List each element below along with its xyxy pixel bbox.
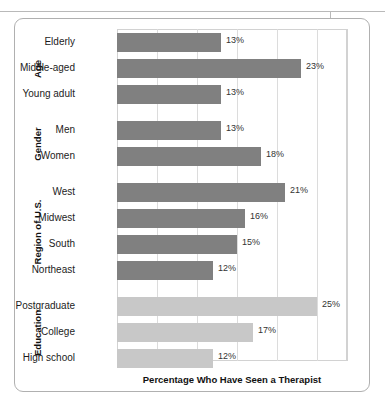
bar-chart: AgeGenderRegion of U.S.Education Elderly… xyxy=(0,0,385,398)
bar-value-label: 15% xyxy=(242,237,260,247)
x-axis-title: Percentage Who Have Seen a Therapist xyxy=(117,374,347,385)
bar-row: Middle-aged23% xyxy=(0,59,385,78)
bar-value-label: 18% xyxy=(266,149,284,159)
bar xyxy=(117,261,213,280)
bar-row: South15% xyxy=(0,235,385,254)
bar-row: Midwest16% xyxy=(0,209,385,228)
bar xyxy=(117,59,301,78)
bar xyxy=(117,209,245,228)
bar-category-label: Men xyxy=(0,124,75,135)
bar-row: Men13% xyxy=(0,121,385,140)
bar-value-label: 12% xyxy=(218,263,236,273)
bar-row: Elderly13% xyxy=(0,33,385,52)
bar-category-label: Women xyxy=(0,150,75,161)
bar xyxy=(117,85,221,104)
bar-row: Young adult13% xyxy=(0,85,385,104)
bar xyxy=(117,349,213,368)
bar-category-label: Northeast xyxy=(0,264,75,275)
bar xyxy=(117,33,221,52)
bar-row: West21% xyxy=(0,183,385,202)
bar-row: College17% xyxy=(0,323,385,342)
bar-row: High school12% xyxy=(0,349,385,368)
bar-category-label: Middle-aged xyxy=(0,62,75,73)
bar-category-label: College xyxy=(0,326,75,337)
bar-row: Northeast12% xyxy=(0,261,385,280)
bar-category-label: Midwest xyxy=(0,212,75,223)
bar-category-label: High school xyxy=(0,352,75,363)
bar-value-label: 17% xyxy=(258,325,276,335)
bar-value-label: 21% xyxy=(290,185,308,195)
bar-value-label: 13% xyxy=(226,35,244,45)
bar-category-label: Young adult xyxy=(0,88,75,99)
bar-value-label: 12% xyxy=(218,351,236,361)
bar-category-label: Elderly xyxy=(0,36,75,47)
bar-category-label: Postgraduate xyxy=(0,300,75,311)
bar-value-label: 13% xyxy=(226,87,244,97)
bar xyxy=(117,121,221,140)
bar-value-label: 25% xyxy=(322,299,340,309)
bar-value-label: 23% xyxy=(306,61,324,71)
bar-row: Postgraduate25% xyxy=(0,297,385,316)
bar xyxy=(117,147,261,166)
bar-value-label: 13% xyxy=(226,123,244,133)
bar-value-label: 16% xyxy=(250,211,268,221)
bar-category-label: South xyxy=(0,238,75,249)
bar-row: Women18% xyxy=(0,147,385,166)
bar xyxy=(117,183,285,202)
bar xyxy=(117,297,317,316)
bar xyxy=(117,323,253,342)
bar-category-label: West xyxy=(0,186,75,197)
bar xyxy=(117,235,237,254)
